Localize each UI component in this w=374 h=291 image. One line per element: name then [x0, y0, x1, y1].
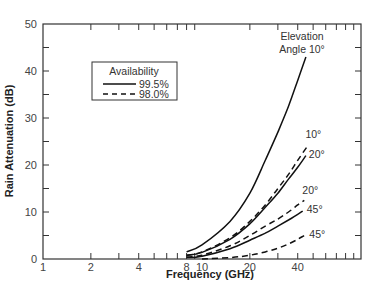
rain-attenuation-chart: 1248102040 01020304050 10°20°20°45°45°El…: [0, 0, 374, 291]
plot-frame: [43, 24, 361, 259]
curve-label: 45°: [307, 203, 323, 215]
curve-label: 45°: [309, 228, 325, 240]
elevation-annotation: Elevation: [280, 30, 323, 42]
x-tick-label: 4: [136, 261, 142, 273]
y-axis-title: Rain Attenuation (dB): [3, 84, 15, 197]
y-tick-label: 20: [25, 159, 37, 171]
curve-label: 10°: [305, 128, 321, 140]
y-tick-label: 0: [31, 253, 37, 265]
y-tick-label: 40: [25, 65, 37, 77]
curve-label: 20°: [302, 184, 318, 196]
y-tick-label: 10: [25, 206, 37, 218]
elevation-annotation: Angle 10°: [279, 43, 325, 55]
y-tick-label: 50: [25, 18, 37, 30]
x-tick-label: 40: [292, 261, 304, 273]
data-curves: [187, 57, 308, 259]
curve-45-99-5-: [187, 211, 303, 258]
legend: Availability99.5%98.0%: [92, 62, 177, 100]
legend-entry-label: 98.0%: [139, 88, 169, 100]
x-tick-label: 2: [88, 261, 94, 273]
x-tick-label: 1: [40, 261, 46, 273]
curve-20-99-5-: [187, 156, 306, 256]
chart-canvas: 1248102040 01020304050 10°20°20°45°45°El…: [0, 0, 374, 291]
curve-20-98-0-: [187, 200, 305, 257]
curve-10-99-5-: [187, 57, 306, 252]
legend-title: Availability: [109, 65, 159, 77]
curve-labels: 10°20°20°45°45°ElevationAngle 10°: [279, 30, 325, 240]
plot-border: [43, 24, 361, 259]
x-axis-title: Frequency (GHz): [166, 268, 254, 280]
y-tick-label: 30: [25, 112, 37, 124]
curve-label: 20°: [309, 148, 325, 160]
curve-10-98-0-: [187, 146, 308, 255]
